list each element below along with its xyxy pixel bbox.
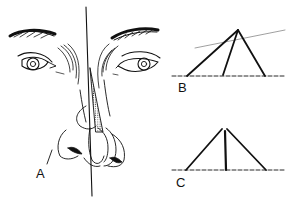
panel-a-face [10,7,160,196]
c-left-side [186,129,222,170]
label-c: C [176,176,185,189]
right-orbital-lines [98,44,118,88]
label-a: A [36,167,45,180]
panel-b-diagram [172,30,286,76]
panel-c-diagram [172,129,286,170]
left-orbital-lines [58,44,79,84]
right-eye [113,52,160,75]
nasal-deviation-shading [90,68,103,132]
left-eye [18,53,64,74]
c-right-side [227,129,266,170]
left-eyebrow [10,30,55,38]
label-b: B [178,81,187,94]
c-middle-side [225,131,226,170]
nose-deviation-figure: A B C [0,0,294,197]
nose-outline [47,80,125,167]
facial-midline [86,7,92,196]
right-eyebrow [112,29,158,40]
